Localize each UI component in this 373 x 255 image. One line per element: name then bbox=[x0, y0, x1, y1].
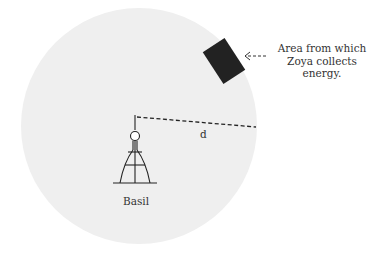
tower-label: Basil bbox=[118, 195, 154, 208]
annotation-line-1: Area from which bbox=[272, 42, 372, 55]
arrow-icon bbox=[245, 52, 266, 60]
annotation-line-2: Zoya collects energy. bbox=[272, 55, 372, 80]
diagram-canvas: Area from which Zoya collects energy. Ba… bbox=[0, 0, 373, 255]
distance-label: d bbox=[200, 128, 207, 141]
patch-annotation: Area from which Zoya collects energy. bbox=[272, 42, 372, 80]
diagram-graphics bbox=[0, 0, 373, 255]
